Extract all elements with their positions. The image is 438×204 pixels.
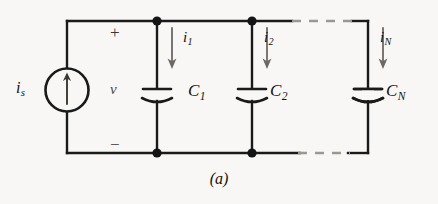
current-label-i1: i1	[183, 30, 193, 47]
node-dot-bottom-1	[152, 148, 161, 157]
capacitor-label-cN: CN	[386, 82, 405, 102]
current-source-label: is	[16, 80, 25, 98]
current-label-iN: iN	[380, 30, 391, 47]
polarity-minus-sign: −	[110, 136, 120, 153]
capacitor-label-c2: C2	[270, 82, 288, 102]
current-label-i2: i2	[264, 30, 274, 47]
circuit-figure: is v + − i1 i2 iN C1 C2 CN (a)	[0, 0, 438, 204]
figure-caption: (a)	[0, 170, 438, 188]
node-dot-top-1	[152, 16, 161, 25]
node-dot-bottom-2	[247, 148, 256, 157]
polarity-plus-sign: +	[110, 24, 120, 41]
voltage-label: v	[110, 82, 117, 97]
capacitor-label-c1: C1	[188, 82, 206, 102]
node-dot-top-2	[247, 16, 256, 25]
